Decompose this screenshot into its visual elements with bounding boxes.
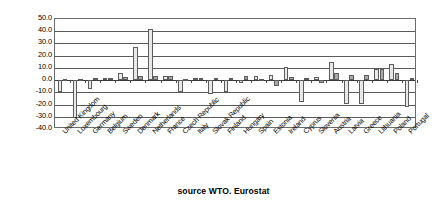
bar	[199, 78, 204, 80]
bar-group	[402, 19, 417, 127]
bar	[269, 75, 274, 80]
bar	[349, 75, 354, 80]
bar	[224, 80, 229, 92]
y-axis-tick-label: 40.0	[4, 26, 52, 34]
bar-group	[372, 19, 387, 127]
bar-group	[55, 19, 70, 127]
bar-group	[342, 19, 357, 127]
bar	[93, 78, 98, 80]
bar	[380, 69, 385, 81]
bar	[239, 80, 244, 83]
bar	[208, 80, 213, 94]
bar	[374, 69, 379, 81]
y-axis-tick-label: -10.0	[4, 87, 52, 95]
bar	[58, 80, 63, 92]
bar	[229, 78, 234, 80]
bar	[183, 79, 188, 81]
y-axis-tick-label: 30.0	[4, 38, 52, 46]
bar	[395, 73, 400, 80]
bar	[364, 75, 369, 81]
bar	[153, 76, 158, 80]
bar	[314, 77, 319, 80]
bar	[284, 67, 289, 80]
bar	[163, 76, 168, 80]
y-axis-tick-label: 20.0	[4, 51, 52, 59]
bar	[168, 76, 173, 80]
bar-group	[296, 19, 311, 127]
bar	[405, 80, 410, 107]
y-axis-tick-labels: 50.040.030.020.010.00.0-10.0-20.0-30.0-4…	[0, 18, 52, 128]
bar	[304, 78, 309, 80]
bar	[274, 80, 279, 86]
bar	[254, 76, 259, 80]
bar	[118, 73, 123, 80]
bar-group	[281, 19, 296, 127]
y-axis-tick-label: -20.0	[4, 100, 52, 108]
y-axis-tick-label: 0.0	[4, 75, 52, 83]
bar-group	[311, 19, 326, 127]
bar	[359, 80, 364, 104]
bar	[78, 79, 83, 81]
bar	[108, 78, 113, 80]
y-axis-tick-label: -40.0	[4, 124, 52, 132]
x-axis-tick-mark	[417, 80, 418, 83]
bar	[214, 78, 219, 80]
bar	[133, 47, 138, 81]
bar	[299, 80, 304, 102]
y-axis-tick-label: -30.0	[4, 112, 52, 120]
x-axis-category-labels: United KingdomLuxembourgGermanyBelgiumSw…	[54, 128, 416, 184]
chart-figure: 50.040.030.020.010.00.0-10.0-20.0-30.0-4…	[0, 0, 447, 209]
chart-source-caption: source WTO. Eurostat	[0, 186, 447, 196]
y-axis-tick-label: 10.0	[4, 63, 52, 71]
bar	[244, 76, 249, 80]
bar	[178, 80, 183, 92]
bar	[193, 78, 198, 80]
bar	[389, 64, 394, 81]
y-axis-tick-label: 50.0	[4, 14, 52, 22]
bar	[148, 29, 153, 80]
bar	[88, 80, 93, 89]
bar	[63, 79, 68, 81]
bar	[334, 73, 339, 80]
bar	[138, 76, 143, 80]
bar	[103, 78, 108, 80]
bar-group	[357, 19, 372, 127]
bar	[289, 77, 294, 80]
bar	[259, 79, 264, 81]
bar-group	[266, 19, 281, 127]
bar	[319, 80, 324, 82]
bar	[344, 80, 349, 104]
bar	[410, 78, 415, 80]
bar	[329, 62, 334, 80]
bar	[123, 77, 128, 80]
